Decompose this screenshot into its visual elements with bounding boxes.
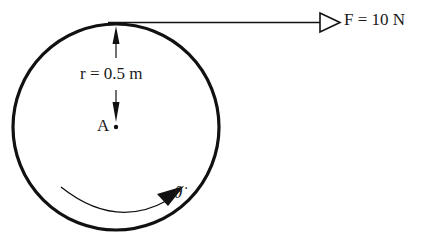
rotation-label: θ̇ — [174, 183, 182, 203]
pivot-label: A — [97, 116, 109, 136]
radius-label: r = 0.5 m — [80, 64, 142, 84]
rotation-arc — [61, 187, 168, 212]
radius-up-arrow-icon — [113, 26, 120, 58]
force-arrow-icon — [320, 13, 340, 32]
force-label: F = 10 N — [344, 10, 405, 30]
pivot-point — [114, 125, 118, 129]
diagram-canvas: F = 10 N r = 0.5 m A θ̇ — [0, 0, 422, 236]
diagram-svg — [0, 0, 422, 236]
radius-down-arrow-icon — [113, 90, 120, 122]
